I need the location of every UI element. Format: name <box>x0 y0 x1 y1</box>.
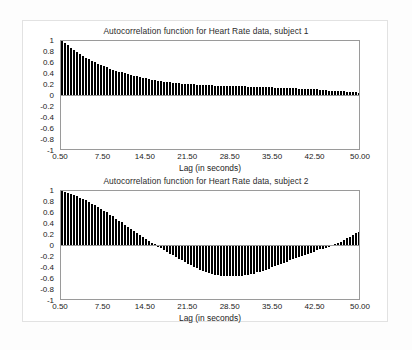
y-tick-label: 0.8 <box>43 197 54 206</box>
y-tick-label: 0 <box>50 241 54 250</box>
y-tick-label: 1 <box>50 186 54 195</box>
x-tick-label: 14.50 <box>135 302 155 311</box>
x-tick-label: 42.50 <box>305 302 325 311</box>
y-tick-label: -0.6 <box>40 274 54 283</box>
plot-area <box>60 190 360 300</box>
x-axis-title: Lag (in seconds) <box>60 163 360 173</box>
x-tick-label: 50.00 <box>350 302 370 311</box>
y-tick-label: 0.2 <box>43 230 54 239</box>
y-tick-label: -0.8 <box>40 135 54 144</box>
x-tick-label: 28.50 <box>220 152 240 161</box>
chart-subject-1: Autocorrelation function for Heart Rate … <box>0 26 412 178</box>
chart-title: Autocorrelation function for Heart Rate … <box>0 26 412 36</box>
scanned-page: Autocorrelation function for Heart Rate … <box>0 0 412 350</box>
zero-baseline <box>61 245 359 246</box>
y-tick-label: 1 <box>50 36 54 45</box>
y-axis-labels: 10.80.60.40.20-0.2-0.4-0.6-0.8-1 <box>0 190 57 300</box>
x-tick-label: 0.50 <box>52 302 68 311</box>
y-tick-label: -0.8 <box>40 285 54 294</box>
x-tick-label: 35.50 <box>262 152 282 161</box>
y-tick-label: -0.2 <box>40 252 54 261</box>
x-tick-label: 50.00 <box>350 152 370 161</box>
y-axis-labels: 10.80.60.40.20-0.2-0.4-0.6-0.8-1 <box>0 40 57 150</box>
y-tick-label: -0.6 <box>40 124 54 133</box>
x-tick-label: 21.50 <box>177 302 197 311</box>
y-tick-label: 0.2 <box>43 80 54 89</box>
plot-area <box>60 40 360 150</box>
x-axis-title: Lag (in seconds) <box>60 313 360 323</box>
y-tick-label: 0.6 <box>43 208 54 217</box>
y-tick-label: 0 <box>50 91 54 100</box>
x-tick-label: 28.50 <box>220 302 240 311</box>
x-tick-label: 42.50 <box>305 152 325 161</box>
y-tick-label: -0.4 <box>40 263 54 272</box>
bar <box>358 232 360 246</box>
y-tick-label: 0.6 <box>43 58 54 67</box>
x-tick-label: 7.50 <box>95 302 111 311</box>
y-tick-label: 0.8 <box>43 47 54 56</box>
zero-baseline <box>61 95 359 96</box>
x-tick-label: 21.50 <box>177 152 197 161</box>
bar <box>328 246 330 247</box>
x-tick-label: 14.50 <box>135 152 155 161</box>
chart-title: Autocorrelation function for Heart Rate … <box>0 176 412 186</box>
chart-subject-2: Autocorrelation function for Heart Rate … <box>0 176 412 328</box>
x-tick-label: 35.50 <box>262 302 282 311</box>
y-tick-label: -0.4 <box>40 113 54 122</box>
y-tick-label: 0.4 <box>43 69 54 78</box>
y-tick-label: -0.2 <box>40 102 54 111</box>
y-tick-label: 0.4 <box>43 219 54 228</box>
x-tick-label: 7.50 <box>95 152 111 161</box>
x-tick-label: 0.50 <box>52 152 68 161</box>
